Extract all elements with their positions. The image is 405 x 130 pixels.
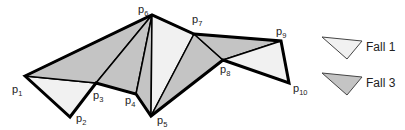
triangle-group: [25, 15, 289, 117]
label-p9: p9: [276, 25, 286, 40]
label-p3: p3: [93, 89, 103, 104]
legend-item-fall-3: Fall 3: [322, 73, 396, 95]
legend-swatch-fall-1: [322, 37, 362, 59]
label-p6: p6: [138, 3, 148, 18]
label-p10: p10: [293, 82, 307, 97]
triangulation-diagram: p1 p2 p3 p4 p5 p6 p7 p8 p9 p10 Fall 1 Fa…: [0, 0, 405, 130]
legend-label-fall-1: Fall 1: [366, 40, 396, 54]
label-p4: p4: [125, 94, 135, 109]
legend-item-fall-1: Fall 1: [322, 37, 396, 59]
label-p8: p8: [220, 63, 230, 78]
label-p5: p5: [157, 114, 167, 129]
label-p2: p2: [76, 112, 86, 127]
legend: Fall 1 Fall 3: [322, 37, 396, 95]
legend-label-fall-3: Fall 3: [366, 76, 396, 90]
label-p1: p1: [12, 83, 22, 98]
legend-swatch-fall-3: [322, 73, 362, 95]
label-p7: p7: [192, 13, 202, 28]
